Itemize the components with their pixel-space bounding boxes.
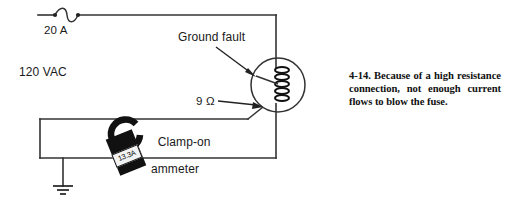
clamp-ammeter-label-line2: ammeter <box>144 163 211 176</box>
fuse-terminal-right <box>76 13 80 17</box>
supply-voltage-label: 120 VAC <box>19 66 67 79</box>
figure-caption: 4-14. Because of a high resistance conne… <box>349 69 501 109</box>
wire-fault-path <box>248 107 263 119</box>
clamp-ammeter-label-line1: Clamp-on <box>158 135 211 149</box>
load-symbol <box>251 58 305 112</box>
load-circle <box>251 58 305 112</box>
ground-fault-leader <box>216 47 256 77</box>
fuse-squiggle <box>55 8 78 22</box>
fuse-rating-label: 20 A <box>44 24 67 37</box>
fuse-terminal-left <box>53 13 57 17</box>
ground-fault-label: Ground fault <box>178 31 245 44</box>
resistance-value-label: 9 Ω <box>196 95 215 108</box>
figure-container: 13.3A 20 A 120 VAC Ground fault 9 Ω Clam… <box>0 0 522 209</box>
clamp-ammeter-label: Clamp-on ammeter <box>144 123 211 204</box>
ground-symbol <box>53 186 73 194</box>
